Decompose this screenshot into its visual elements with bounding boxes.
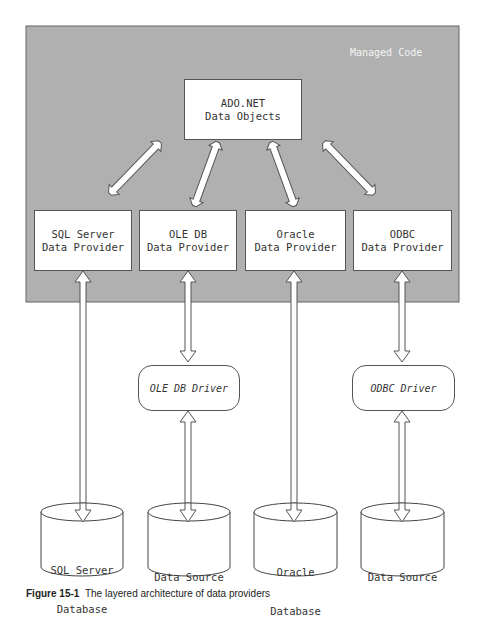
provider-line2: Data Provider bbox=[254, 241, 336, 254]
provider-line2: Data Provider bbox=[147, 241, 229, 254]
driver-box-odbc: ODBC Driver bbox=[352, 365, 455, 411]
double-arrow-icon bbox=[286, 271, 302, 522]
database-label-oracle: Oracle Database bbox=[254, 540, 337, 619]
ado-net-line2: Data Objects bbox=[205, 110, 281, 123]
figure-caption: Figure 15-1 The layered architecture of … bbox=[26, 588, 270, 599]
provider-line1: ODBC bbox=[390, 228, 415, 241]
provider-box-sql-server: SQL Server Data Provider bbox=[34, 210, 132, 271]
driver-label: OLE DB Driver bbox=[150, 383, 228, 394]
provider-line1: SQL Server bbox=[51, 228, 114, 241]
database-line1: Data Source bbox=[361, 571, 444, 584]
figure-caption-prefix: Figure 15-1 bbox=[26, 588, 79, 599]
driver-label: ODBC Driver bbox=[370, 383, 436, 394]
ado-net-line1: ADO.NET bbox=[221, 97, 265, 110]
driver-box-ole-db: OLE DB Driver bbox=[138, 365, 240, 411]
provider-line1: Oracle bbox=[277, 228, 315, 241]
database-line2: Database bbox=[254, 605, 337, 618]
database-line1: Oracle bbox=[254, 566, 337, 579]
database-label-data-source-2: Data Source bbox=[361, 545, 444, 597]
provider-box-oracle: Oracle Data Provider bbox=[245, 210, 346, 271]
provider-box-ole-db: OLE DB Data Provider bbox=[139, 210, 237, 271]
provider-line2: Data Provider bbox=[361, 241, 443, 254]
provider-line2: Data Provider bbox=[42, 241, 124, 254]
database-line1: Data Source bbox=[148, 571, 230, 584]
double-arrow-icon bbox=[75, 271, 91, 522]
database-line1: SQL Server bbox=[41, 564, 123, 577]
database-label-sql-server: SQL Server Database bbox=[41, 538, 123, 619]
provider-box-odbc: ODBC Data Provider bbox=[353, 210, 452, 271]
arrow-heads-overlay bbox=[75, 503, 410, 522]
figure-caption-text: The layered architecture of data provide… bbox=[85, 588, 270, 599]
ado-net-data-objects-box: ADO.NET Data Objects bbox=[184, 79, 302, 140]
provider-line1: OLE DB bbox=[169, 228, 207, 241]
database-line2: Database bbox=[41, 603, 123, 616]
managed-code-label: Managed Code bbox=[350, 47, 422, 58]
